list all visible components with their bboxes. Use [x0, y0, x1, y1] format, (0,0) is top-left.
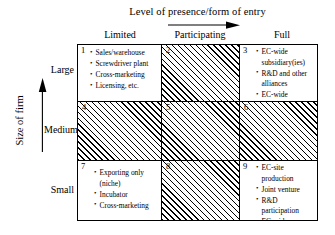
matrix-grid: 1 Sales/warehouse Screwdriver plant Cros… — [77, 44, 318, 221]
cell-number: 8 — [165, 162, 171, 171]
y-axis-label-large: Large — [44, 64, 74, 75]
matrix-cell-6[interactable]: 6 — [240, 102, 317, 161]
matrix-cell-9[interactable]: 9 EC-site production Joint venture R&D p… — [240, 161, 317, 220]
matrix-cell-2[interactable]: 2 — [162, 45, 240, 102]
list-item: Sales/warehouse — [90, 48, 159, 59]
list-item: R&D and other alliances — [256, 69, 315, 90]
x-axis-label-limited: Limited — [82, 29, 158, 40]
cell-number: 3 — [243, 46, 247, 55]
matrix-cell-8[interactable]: 8 — [162, 161, 240, 220]
list-item: Exporting only (niche) — [94, 168, 159, 189]
list-item: Cross-marketing — [94, 201, 159, 212]
matrix-cell-4[interactable]: 4 — [78, 102, 162, 161]
cell-number: 2 — [165, 46, 171, 55]
list-item: EC-wide distribution — [256, 217, 315, 220]
cell-item-list: Sales/warehouse Screwdriver plant Cross-… — [78, 45, 161, 92]
list-item: Screwdriver plant — [90, 59, 159, 70]
list-item: Licensing, etc. — [90, 81, 159, 92]
cell-item-list: EC-site production Joint venture R&D par… — [240, 161, 317, 220]
list-item: EC-site production — [256, 163, 315, 184]
cell-number: 4 — [81, 103, 87, 112]
list-item: EC-wide distribution — [256, 90, 315, 102]
cell-item-list: Exporting only (niche) Incubator Cross-m… — [78, 161, 161, 211]
list-item: R&D participation — [256, 196, 315, 217]
x-axis-title: Level of presence/form of entry — [77, 6, 318, 17]
cell-number: 7 — [81, 162, 85, 171]
x-axis-label-full: Full — [250, 29, 314, 40]
x-axis-label-participating: Participating — [163, 29, 237, 40]
y-axis-label-medium: Medium — [44, 124, 74, 135]
cell-number: 6 — [243, 103, 249, 112]
y-axis-label-small: Small — [44, 184, 74, 195]
matrix-cell-3[interactable]: 3 EC-wide subsidiary(ies) R&D and other … — [240, 45, 317, 102]
y-axis-arrow-icon — [38, 78, 47, 152]
cell-item-list: EC-wide subsidiary(ies) R&D and other al… — [240, 45, 317, 102]
matrix-cell-7[interactable]: 7 Exporting only (niche) Incubator Cross… — [78, 161, 162, 220]
cell-number: 9 — [243, 162, 247, 171]
list-item: Cross-marketing — [90, 70, 159, 81]
list-item: Incubator — [94, 190, 159, 201]
list-item: EC-wide subsidiary(ies) — [256, 47, 315, 68]
list-item: Joint venture — [256, 185, 315, 196]
matrix-cell-5[interactable]: 5 — [162, 102, 240, 161]
y-axis-title: Size of firm — [14, 78, 25, 164]
matrix-cell-1[interactable]: 1 Sales/warehouse Screwdriver plant Cros… — [78, 45, 162, 102]
cell-number: 1 — [81, 46, 85, 55]
cell-number: 5 — [165, 103, 171, 112]
